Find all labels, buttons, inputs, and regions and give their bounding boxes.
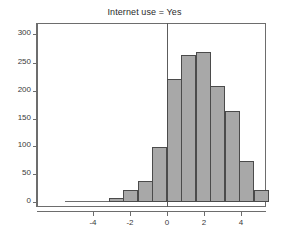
x-tick-label: 2 bbox=[192, 218, 216, 227]
x-tick-mark bbox=[167, 211, 168, 216]
x-tick-mark bbox=[130, 211, 131, 216]
x-axis: -4-2024 bbox=[0, 0, 289, 237]
x-tick-label: -2 bbox=[118, 218, 142, 227]
x-tick-label: 4 bbox=[229, 218, 253, 227]
histogram-figure: Internet use = Yes 300250200150100500 -4… bbox=[0, 0, 289, 237]
x-tick-label: -4 bbox=[81, 218, 105, 227]
x-tick-label: 0 bbox=[155, 218, 179, 227]
x-tick-mark bbox=[241, 211, 242, 216]
x-tick-mark bbox=[93, 211, 94, 216]
x-tick-mark bbox=[204, 211, 205, 216]
